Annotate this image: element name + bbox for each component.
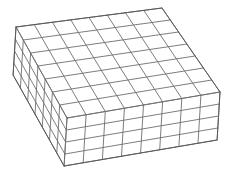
grid-line [14, 63, 65, 154]
grid-line [71, 20, 125, 108]
box-outline [13, 8, 220, 166]
wireframe-box-figure [0, 0, 226, 176]
grid-line [31, 32, 179, 53]
grid-line [16, 27, 67, 118]
grid-line [107, 15, 162, 102]
top-face-grid [16, 8, 220, 118]
left-face-grid [13, 27, 67, 166]
grid-line [65, 128, 218, 154]
grid-line [15, 51, 66, 142]
grid-line [53, 22, 106, 111]
grid-line [60, 80, 212, 105]
grid-line [66, 116, 219, 142]
grid-line [38, 44, 187, 66]
grid-line [89, 18, 144, 106]
grid-line [67, 92, 220, 118]
wireframe-box [0, 0, 226, 176]
grid-line [34, 25, 86, 115]
grid-line [15, 39, 66, 130]
grid-line [66, 104, 219, 130]
grid-line [45, 56, 195, 79]
grid-line [52, 68, 203, 92]
